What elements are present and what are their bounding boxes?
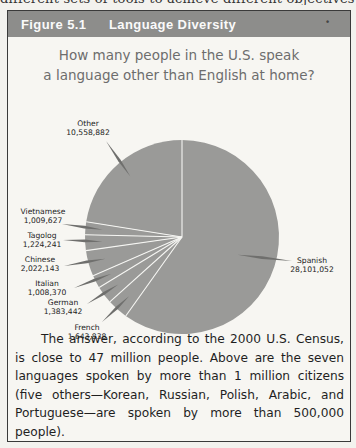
pie-chart: Other10,558,882Vietnamese1,009,627Tagolo…	[0, 0, 356, 448]
slice-label-vietnamese: Vietnamese1,009,627	[21, 207, 66, 225]
slice-label-other: Other10,558,882	[66, 119, 110, 137]
pie-slice-other	[86, 140, 182, 237]
slice-label-french: French1,643,838	[68, 323, 107, 341]
slice-label-italian: Italian1,008,370	[28, 279, 67, 297]
slice-label-chinese: Chinese2,022,143	[21, 255, 60, 273]
slice-label-spanish: Spanish28,101,052	[290, 256, 334, 274]
slice-label-tagolog: Tagolog1,224,241	[23, 231, 62, 249]
slice-label-german: German1,383,442	[44, 298, 83, 316]
